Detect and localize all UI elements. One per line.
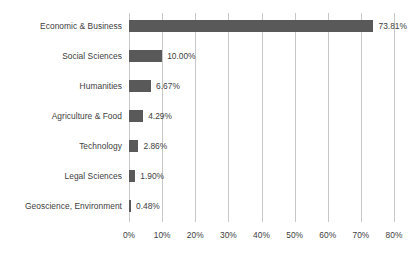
- category-label: Agriculture & Food: [0, 106, 122, 126]
- x-tick-label: 50%: [286, 228, 303, 242]
- bar-row: Technology2.86%: [0, 136, 417, 156]
- category-label: Geoscience, Environment: [0, 196, 122, 216]
- category-label: Technology: [0, 136, 122, 156]
- bar-value-label: 4.29%: [143, 106, 172, 126]
- x-tick-label: 0%: [123, 228, 135, 242]
- bar-row: Agriculture & Food4.29%: [0, 106, 417, 126]
- x-axis-tick-labels: 0%10%20%30%40%50%60%70%80%: [129, 228, 394, 242]
- bar-row: Social Sciences10.00%: [0, 46, 417, 66]
- x-tick-label: 10%: [154, 228, 171, 242]
- bar-value-label: 6.67%: [151, 76, 180, 96]
- bar: [129, 110, 143, 122]
- x-tick-label: 20%: [187, 228, 204, 242]
- bar-value-label: 2.86%: [138, 136, 167, 156]
- bar-rows: Economic & Business73.81%Social Sciences…: [0, 0, 417, 257]
- bar: [129, 20, 373, 32]
- x-tick-label: 40%: [253, 228, 270, 242]
- bar-row: Legal Sciences1.90%: [0, 166, 417, 186]
- bar-row: Geoscience, Environment0.48%: [0, 196, 417, 216]
- bar: [129, 140, 138, 152]
- category-label: Legal Sciences: [0, 166, 122, 186]
- bar-value-label: 0.48%: [131, 196, 160, 216]
- category-label: Economic & Business: [0, 16, 122, 36]
- x-tick-label: 80%: [386, 228, 403, 242]
- bar-value-label: 10.00%: [162, 46, 195, 66]
- category-label: Social Sciences: [0, 46, 122, 66]
- x-tick-label: 60%: [319, 228, 336, 242]
- bar-value-label: 1.90%: [135, 166, 164, 186]
- category-label: Humanities: [0, 76, 122, 96]
- bar-row: Economic & Business73.81%: [0, 16, 417, 36]
- x-tick-label: 70%: [352, 228, 369, 242]
- bar-row: Humanities6.67%: [0, 76, 417, 96]
- bar: [129, 50, 162, 62]
- bar-value-label: 73.81%: [373, 16, 406, 36]
- bar-chart: Economic & Business73.81%Social Sciences…: [0, 0, 417, 257]
- x-tick-label: 30%: [220, 228, 237, 242]
- bar: [129, 80, 151, 92]
